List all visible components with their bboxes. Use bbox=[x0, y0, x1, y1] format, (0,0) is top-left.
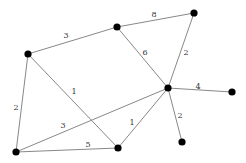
edge-weight-label: 2 bbox=[13, 103, 18, 112]
edge-weight-label: 5 bbox=[85, 140, 90, 149]
edge-weight-label: 6 bbox=[142, 48, 147, 57]
edge-weight-label: 3 bbox=[63, 31, 68, 40]
edge-B-D bbox=[117, 27, 168, 88]
edge-G-H bbox=[16, 148, 118, 152]
edge-G-D bbox=[16, 88, 168, 152]
edge-A-B bbox=[28, 27, 117, 54]
edge-weight-label: 2 bbox=[177, 111, 182, 120]
edge-weight-label: 8 bbox=[151, 10, 156, 19]
node-B bbox=[113, 23, 120, 30]
node-F bbox=[178, 138, 185, 145]
node-H bbox=[114, 144, 121, 151]
edge-weight-label: 1 bbox=[129, 118, 134, 127]
node-C bbox=[190, 9, 197, 16]
node-A bbox=[24, 50, 31, 57]
node-G bbox=[12, 148, 19, 155]
weighted-graph: 38622135142 bbox=[0, 0, 246, 163]
edge-weight-label: 1 bbox=[71, 87, 76, 96]
edge-A-H bbox=[28, 54, 118, 148]
edge-weight-label: 3 bbox=[60, 121, 65, 130]
edge-weight-label: 4 bbox=[195, 82, 200, 91]
node-D bbox=[164, 84, 171, 91]
edge-H-D bbox=[118, 88, 168, 148]
node-E bbox=[228, 88, 235, 95]
edge-weight-label: 2 bbox=[183, 48, 188, 57]
edge-C-D bbox=[168, 13, 194, 88]
